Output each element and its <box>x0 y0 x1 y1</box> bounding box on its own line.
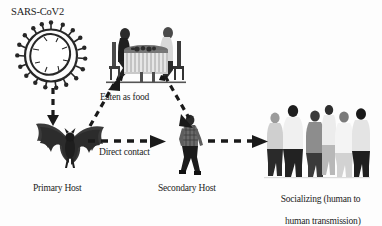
arrow-dining-to-secondary-host <box>155 72 197 130</box>
node-label-secondary-host: Secondary Host <box>158 183 216 194</box>
node-label-socializing: Socializing (human to human transmission… <box>272 183 361 226</box>
edge-label-direct-contact: Direct contact <box>99 147 150 158</box>
node-label-socializing-line1: Socializing (human to <box>281 194 361 204</box>
group-of-people-socializing-icon <box>262 103 372 181</box>
edge-label-eaten-as-food: Eaten as food <box>100 92 149 103</box>
arrow-secondary-host-to-group <box>208 134 270 150</box>
coronavirus-particle-icon <box>14 20 88 94</box>
virus-title-label: SARS-CoV2 <box>11 6 64 18</box>
transmission-diagram-figure: SARS-CoV2 <box>0 0 382 226</box>
node-label-primary-host: Primary Host <box>33 183 82 194</box>
node-label-socializing-line2: human transmission) <box>272 216 361 226</box>
arrow-virus-to-primary-host <box>44 88 64 128</box>
